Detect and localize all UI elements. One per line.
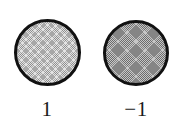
shaded-disk-1 [14, 19, 81, 86]
shaded-disk-2 [103, 20, 169, 86]
figure-canvas: 1 −1 [0, 0, 183, 131]
disk-label-2: −1 [96, 96, 176, 122]
disk-label-1: 1 [7, 96, 87, 122]
